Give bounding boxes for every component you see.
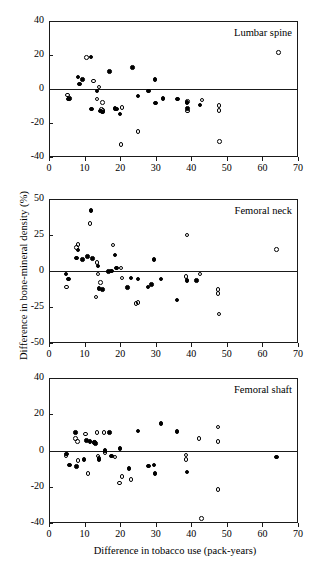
data-point-filled [130, 65, 135, 70]
panel-femoral-neck: Femoral neck -50-2502550010203040506070 [49, 199, 298, 343]
x-axis-tick-label: 70 [287, 528, 309, 539]
data-point-open [274, 247, 279, 252]
data-point-filled [125, 285, 130, 290]
x-axis-tick-label: 60 [251, 348, 273, 359]
y-axis-tick [49, 55, 53, 56]
x-axis-tick-label: 30 [145, 348, 167, 359]
y-axis-tick [49, 271, 53, 272]
data-point-open [117, 481, 122, 486]
y-axis-tick-label: 40 [10, 371, 44, 382]
x-axis-tick [298, 157, 299, 161]
data-point-filled [109, 269, 114, 274]
data-point-open [100, 100, 105, 105]
x-axis-tick-label: 30 [145, 162, 167, 173]
data-point-filled [77, 82, 82, 87]
data-point-filled [73, 430, 78, 435]
data-point-open [75, 439, 80, 444]
x-axis-tick-label: 20 [109, 528, 131, 539]
data-point-open [95, 260, 100, 265]
x-axis-tick-label: 20 [109, 348, 131, 359]
x-axis-tick [262, 523, 263, 527]
data-point-open [185, 99, 190, 104]
x-axis-tick-label: 20 [109, 162, 131, 173]
data-point-open [92, 440, 97, 445]
panel-title: Femoral shaft [234, 384, 292, 395]
data-point-open [129, 477, 134, 482]
data-point-filled [107, 430, 112, 435]
x-axis-tick-label: 50 [216, 528, 238, 539]
data-point-open [119, 142, 124, 147]
data-point-open [64, 285, 69, 290]
x-axis-tick [227, 157, 228, 161]
y-axis-tick [49, 307, 53, 308]
y-axis-tick-label: 25 [10, 228, 44, 239]
y-axis-tick-label: -25 [10, 300, 44, 311]
x-axis-label: Difference in tobacco use (pack-years) [40, 545, 310, 556]
data-point-open [217, 139, 222, 144]
x-axis-tick-label: 50 [216, 348, 238, 359]
x-axis-tick [191, 343, 192, 347]
data-point-open [84, 55, 89, 60]
y-axis-tick-label: 40 [10, 14, 44, 25]
x-axis-tick-label: 0 [38, 528, 60, 539]
data-point-open [97, 456, 102, 461]
x-axis-tick [49, 343, 50, 347]
panel-lumbar-spine: Lumbar spine -40-2002040010203040506070 [49, 21, 298, 157]
zero-reference-line [49, 271, 298, 272]
data-point-filled [80, 77, 85, 82]
y-axis-tick-label: 0 [10, 82, 44, 93]
data-point-filled [152, 257, 157, 262]
y-axis-tick [49, 378, 53, 379]
data-point-filled [85, 254, 90, 259]
x-axis-tick [85, 157, 86, 161]
data-point-open [276, 50, 281, 55]
data-point-filled [90, 256, 95, 261]
x-axis-tick-label: 70 [287, 348, 309, 359]
data-point-open [216, 487, 221, 492]
data-point-filled [149, 282, 154, 287]
data-point-open [199, 516, 204, 521]
data-point-filled [107, 69, 112, 74]
y-axis-tick [49, 89, 53, 90]
x-axis-tick [298, 343, 299, 347]
x-axis-tick [49, 157, 50, 161]
data-point-open [76, 242, 81, 247]
x-axis-tick [120, 523, 121, 527]
y-axis-tick-label: -20 [10, 116, 44, 127]
y-axis-tick-label: -40 [10, 516, 44, 527]
data-point-open [216, 291, 221, 296]
y-axis-tick-label: 20 [10, 48, 44, 59]
data-point-filled [153, 101, 158, 106]
y-axis-tick-label: -20 [10, 480, 44, 491]
figure-root: Difference in bone-mineral density (%) L… [0, 0, 319, 565]
y-axis-tick-label: 0 [10, 264, 44, 275]
data-point-open [216, 439, 221, 444]
data-point-filled [146, 464, 151, 469]
data-point-open [217, 108, 222, 113]
x-axis-tick [262, 343, 263, 347]
x-axis-tick [227, 343, 228, 347]
y-axis-tick [49, 21, 53, 22]
x-axis-tick-label: 60 [251, 528, 273, 539]
panel-title: Lumbar spine [234, 27, 292, 38]
x-axis-tick-label: 0 [38, 162, 60, 173]
zero-reference-line [49, 89, 298, 90]
x-axis-tick-label: 70 [287, 162, 309, 173]
y-axis-tick [49, 123, 53, 124]
y-axis-tick-label: 20 [10, 407, 44, 418]
data-point-filled [161, 96, 166, 101]
data-point-open [136, 129, 141, 134]
y-axis-tick-label: -40 [10, 150, 44, 161]
x-axis-tick [85, 343, 86, 347]
y-axis-tick [49, 414, 53, 415]
data-point-filled [82, 457, 87, 462]
data-point-filled [66, 277, 71, 282]
x-axis-tick-label: 60 [251, 162, 273, 173]
data-point-open [65, 93, 70, 98]
x-axis-tick [156, 523, 157, 527]
x-axis-tick [191, 523, 192, 527]
x-axis-tick [156, 343, 157, 347]
y-axis-tick-label: 50 [10, 192, 44, 203]
x-axis-tick [262, 157, 263, 161]
y-axis-tick [49, 487, 53, 488]
